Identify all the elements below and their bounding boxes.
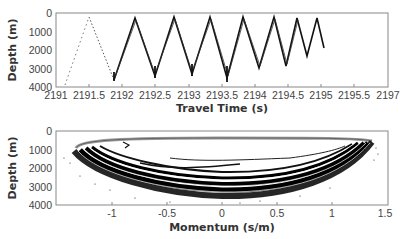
x-tick-label: -0.5 — [158, 207, 176, 219]
x-axis-label: Momentum (s/m) — [169, 221, 275, 234]
x-tick-label: 2194.5 — [272, 89, 304, 101]
ray-path-series — [65, 17, 324, 85]
x-axis-label: Travel Time (s) — [176, 102, 268, 115]
x-tick-label: 2193 — [177, 89, 201, 101]
x-tick-label: 2192.5 — [139, 89, 171, 101]
x-tick-label: 2192 — [110, 89, 134, 101]
x-tick-label: 1.5 — [378, 207, 393, 219]
phase-space-series — [74, 138, 372, 196]
x-tick-label: 0.5 — [270, 207, 285, 219]
x-tick-label: 2195 — [309, 89, 333, 101]
y-axis: 0 1000 2000 3000 4000 Depth (m) — [6, 125, 52, 211]
y-tick-label: 4000 — [29, 199, 53, 211]
x-tick-label: 2197 — [376, 89, 400, 101]
x-tick-label: 2191.5 — [73, 89, 105, 101]
y-tick-label: 0 — [46, 125, 52, 137]
x-tick-label: 2191 — [44, 89, 68, 101]
momentum-chart: 0 1000 2000 3000 4000 Depth (m) -1 -0.5 … — [0, 118, 404, 239]
x-tick-label: -1 — [107, 207, 116, 219]
x-tick-label: 0 — [219, 207, 225, 219]
y-tick-label: 1000 — [29, 26, 53, 38]
momentum-plot: 0 1000 2000 3000 4000 Depth (m) -1 -0.5 … — [0, 118, 404, 239]
x-tick-label: 1 — [329, 207, 335, 219]
y-tick-label: 2000 — [29, 162, 53, 174]
y-tick-label: 0 — [46, 7, 52, 19]
y-tick-label: 2000 — [29, 44, 53, 56]
x-tick-label: 2193.5 — [206, 89, 238, 101]
y-tick-label: 3000 — [29, 181, 53, 193]
y-axis: 0 1000 2000 3000 4000 Depth (m) — [6, 7, 52, 93]
x-tick-labels: 2191 2191.5 2192 2192.5 2193 2193.5 2194… — [44, 89, 400, 115]
travel-time-chart: 0 1000 2000 3000 4000 Depth (m) 2191 219… — [0, 0, 404, 118]
plot-frame — [56, 13, 388, 87]
x-tick-labels: -1 -0.5 0 0.5 1 1.5 Momentum (s/m) — [107, 207, 392, 234]
y-axis-label: Depth (m) — [6, 137, 19, 200]
x-tick-label: 2195.5 — [338, 89, 370, 101]
y-tick-label: 1000 — [29, 144, 53, 156]
y-axis-label: Depth (m) — [6, 19, 19, 82]
travel-time-plot: 0 1000 2000 3000 4000 Depth (m) 2191 219… — [0, 0, 404, 118]
y-tick-label: 3000 — [29, 63, 53, 75]
x-tick-label: 2194 — [243, 89, 267, 101]
